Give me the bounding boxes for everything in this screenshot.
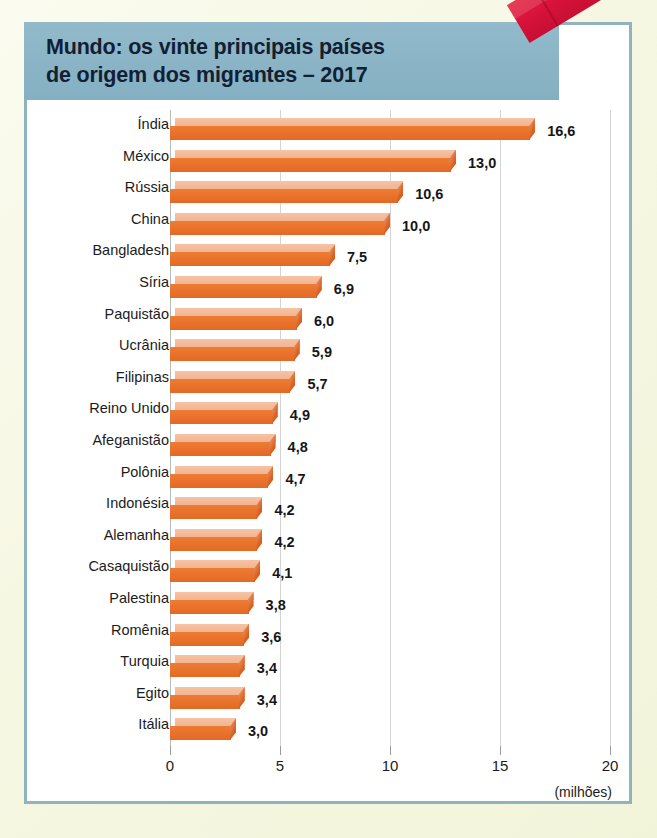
x-axis-tick [610,746,611,755]
bar-row: Afeganistão4,8 [24,428,632,460]
category-label: Alemanha [9,527,169,543]
bar-front-face [170,474,268,488]
bar [170,624,249,646]
bar-top-face [175,244,335,252]
bar-value-label: 5,7 [307,376,327,392]
bar-top-face [175,276,322,284]
bar-value-label: 10,6 [415,186,443,202]
category-label: Romênia [9,622,169,638]
bar [170,308,302,330]
bar-front-face [170,221,385,235]
bar-front-face [170,284,317,298]
page-title: Mundo: os vinte principais países de ori… [46,34,543,90]
category-label: Polônia [9,464,169,480]
category-label: Síria [9,274,169,290]
bar-top-face [175,655,245,663]
x-axis-tick [390,746,391,755]
bar-top-face [175,213,390,221]
bar [170,181,403,203]
bar-value-label: 3,0 [248,723,268,739]
bar-top-face [175,308,302,316]
bar-top-face [175,466,273,474]
bar [170,244,335,266]
bar-front-face [170,252,330,266]
bar-top-face [175,371,295,379]
bar-front-face [170,505,257,519]
bar-front-face [170,442,271,456]
bar-top-face [175,560,260,568]
bar-value-label: 3,4 [257,692,277,708]
bar [170,371,295,393]
bar-row: Síria6,9 [24,270,632,302]
bar-value-label: 4,7 [285,471,305,487]
bar-top-face [175,718,236,726]
bar-value-label: 3,8 [266,597,286,613]
x-axis-unit-label: (milhões) [554,784,612,800]
bar-value-label: 7,5 [347,249,367,265]
bar-front-face [170,695,240,709]
bar-value-label: 16,6 [547,123,575,139]
x-axis-tick [280,746,281,755]
x-axis-tick-label: 0 [166,757,174,774]
bar-row: Palestina3,8 [24,586,632,618]
bar-row: Turquia3,4 [24,649,632,681]
bar-value-label: 4,2 [274,502,294,518]
bar [170,560,260,582]
category-label: Índia [9,116,169,132]
x-axis: (milhões) 05101520 [24,746,632,804]
bar-row: Polônia4,7 [24,460,632,492]
bar [170,150,456,172]
bar-top-face [175,529,262,537]
bar-rows: Índia16,6México13,0Rússia10,6China10,0Ba… [24,112,632,744]
bar-row: Itália3,0 [24,712,632,744]
bar [170,276,322,298]
category-label: Casaquistão [9,558,169,574]
chart-title-line-2: de origem dos migrantes – 2017 [46,63,367,87]
bar-front-face [170,726,231,740]
bar-row: México13,0 [24,144,632,176]
bar-row: Alemanha4,2 [24,523,632,555]
bar-value-label: 4,2 [274,534,294,550]
bar-row: Paquistão6,0 [24,302,632,334]
x-axis-tick-label: 5 [276,757,284,774]
bar-value-label: 13,0 [468,155,496,171]
category-label: Turquia [9,653,169,669]
bar-row: Filipinas5,7 [24,365,632,397]
bar-value-label: 10,0 [402,218,430,234]
bar [170,529,262,551]
x-axis-tick-label: 15 [492,757,509,774]
category-label: Bangladesh [9,242,169,258]
bar-front-face [170,347,295,361]
bar [170,213,390,235]
bar [170,592,254,614]
category-label: Ucrânia [9,337,169,353]
chart-title-line-1: Mundo: os vinte principais países [46,35,385,59]
bar-top-face [175,434,276,442]
bar [170,655,245,677]
bar-value-label: 4,8 [288,439,308,455]
bar-top-face [175,592,254,600]
category-label: Egito [9,685,169,701]
bar-front-face [170,663,240,677]
bar-row: Índia16,6 [24,112,632,144]
bar-value-label: 3,4 [257,660,277,676]
chart-title-band: Mundo: os vinte principais países de ori… [24,22,559,100]
category-label: Reino Unido [9,400,169,416]
bar-row: Reino Unido4,9 [24,396,632,428]
category-label: Indonésia [9,495,169,511]
category-label: Palestina [9,590,169,606]
bar [170,718,236,740]
bar-front-face [170,632,244,646]
bar-row: Ucrânia5,9 [24,333,632,365]
category-label: Rússia [9,179,169,195]
x-axis-tick [500,746,501,755]
bar-row: Bangladesh7,5 [24,238,632,270]
bar-row: Casaquistão4,1 [24,554,632,586]
bar [170,118,535,140]
bar [170,434,276,456]
bar-top-face [175,497,262,505]
bar-top-face [175,402,278,410]
bar [170,497,262,519]
bar-row: Egito3,4 [24,681,632,713]
bar-row: Rússia10,6 [24,175,632,207]
